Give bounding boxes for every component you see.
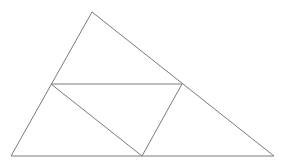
- segment-DF: [51, 84, 142, 156]
- geometry-diagram: [0, 0, 282, 162]
- segment-EF: [142, 84, 182, 156]
- diagram-segments: [11, 12, 274, 156]
